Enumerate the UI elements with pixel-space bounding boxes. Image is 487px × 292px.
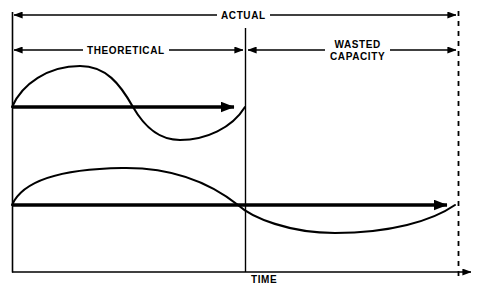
label-actual: ACTUAL [217, 9, 270, 22]
label-theoretical: THEORETICAL [83, 44, 169, 57]
diagram-canvas: ACTUAL THEORETICAL WASTED CAPACITY TIME [0, 0, 487, 292]
label-wasted-capacity: WASTED CAPACITY [325, 38, 390, 64]
upper-s-curve [12, 66, 245, 140]
lower-s-curve [12, 168, 455, 233]
label-wasted-line1: WASTED [330, 39, 385, 51]
label-time-axis: TIME [249, 274, 279, 285]
label-wasted-line2: CAPACITY [330, 51, 385, 63]
diagram-svg [0, 0, 487, 292]
